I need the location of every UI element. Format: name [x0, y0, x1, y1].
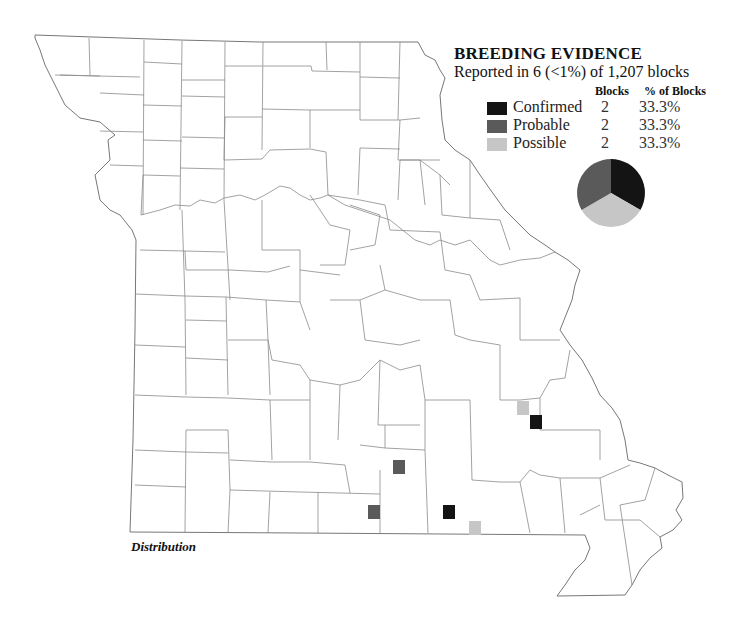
legend-label: Possible	[513, 134, 566, 152]
legend-percent: 33.3%	[639, 134, 680, 152]
legend-blocks-count: 2	[601, 116, 609, 134]
block-marker-probable	[368, 505, 380, 519]
block-marker-probable	[393, 460, 405, 474]
block-marker-confirmed	[530, 415, 542, 429]
legend-percent: 33.3%	[639, 116, 680, 134]
possible-swatch	[487, 138, 507, 151]
block-marker-possible	[517, 401, 529, 415]
legend-title: BREEDING EVIDENCE	[454, 44, 642, 64]
block-marker-confirmed	[443, 505, 455, 519]
legend-percent: 33.3%	[639, 98, 680, 116]
legend-blocks-count: 2	[601, 134, 609, 152]
probable-swatch	[487, 120, 507, 133]
legend-subtitle: Reported in 6 (<1%) of 1,207 blocks	[454, 63, 689, 81]
column-header-blocks: Blocks	[595, 84, 629, 99]
legend-label: Confirmed	[513, 98, 582, 116]
legend-label: Probable	[513, 116, 570, 134]
column-header-percent: % of Blocks	[644, 84, 706, 99]
missouri-county-map	[0, 0, 754, 628]
map-caption: Distribution	[131, 539, 196, 555]
block-marker-possible	[469, 521, 481, 535]
legend-blocks-count: 2	[601, 98, 609, 116]
breeding-evidence-pie-chart	[577, 159, 645, 227]
confirmed-swatch	[487, 102, 507, 115]
legend-row-possible: Possible 2 33.3%	[487, 136, 747, 154]
